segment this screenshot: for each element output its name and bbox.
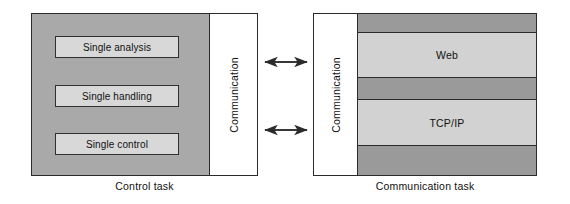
upper-link-arrow xyxy=(256,52,316,72)
control-task-communication-column: Communication xyxy=(210,14,257,175)
stack-band-bottom-spacer xyxy=(358,146,536,175)
communication-task-communication-label: Communication xyxy=(330,57,342,133)
control-task-caption: Control task xyxy=(31,180,258,192)
module-single-handling: Single handling xyxy=(55,85,179,107)
control-task-panel: Single analysis Single handling Single c… xyxy=(32,14,210,175)
control-task-communication-label: Communication xyxy=(228,57,240,133)
communication-task-caption: Communication task xyxy=(313,180,537,192)
stack-band-middle-spacer xyxy=(358,78,536,99)
protocol-stack: Web TCP/IP xyxy=(358,14,536,175)
control-task-group: Single analysis Single handling Single c… xyxy=(31,13,258,176)
lower-link-arrow xyxy=(256,120,316,140)
stack-band-tcpip: TCP/IP xyxy=(358,99,536,146)
stack-band-web: Web xyxy=(358,32,536,78)
module-single-analysis: Single analysis xyxy=(55,36,179,58)
stack-band-top-spacer xyxy=(358,14,536,32)
communication-task-group: Communication Web TCP/IP xyxy=(313,13,537,176)
communication-task-communication-column: Communication xyxy=(314,14,358,175)
block-diagram: Single analysis Single handling Single c… xyxy=(0,0,570,204)
module-single-control: Single control xyxy=(55,133,179,155)
